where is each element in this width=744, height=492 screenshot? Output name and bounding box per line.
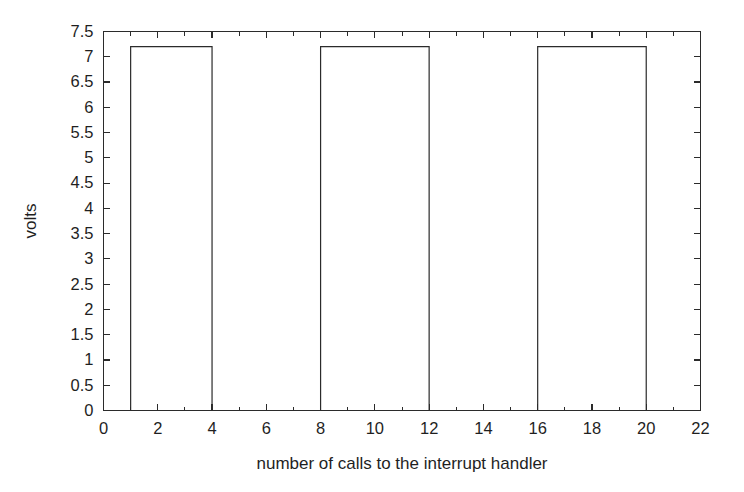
x-tick-label: 20 xyxy=(637,419,655,437)
x-tick-label: 16 xyxy=(529,419,547,437)
y-tick-label: 2 xyxy=(84,300,93,318)
y-tick-label: 7.5 xyxy=(71,22,94,40)
x-tick-label: 22 xyxy=(691,419,709,437)
y-tick-label: 4.5 xyxy=(71,173,94,191)
x-tick-label: 14 xyxy=(474,419,492,437)
x-tick-label: 6 xyxy=(262,419,271,437)
x-tick-label: 8 xyxy=(316,419,325,437)
y-tick-label: 2.5 xyxy=(71,275,94,293)
x-tick-label: 4 xyxy=(207,419,216,437)
x-tick-label: 18 xyxy=(583,419,601,437)
y-tick-label: 1.5 xyxy=(71,325,94,343)
x-tick-label: 2 xyxy=(153,419,162,437)
y-tick-label: 5 xyxy=(84,148,93,166)
y-tick-label: 6.5 xyxy=(71,72,94,90)
y-tick-label: 6 xyxy=(84,98,93,116)
x-tick-label: 12 xyxy=(420,419,438,437)
y-axis-title: volts xyxy=(21,204,40,239)
y-tick-label: 0 xyxy=(84,401,93,419)
x-tick-label: 0 xyxy=(99,419,108,437)
x-tick-label: 10 xyxy=(366,419,384,437)
y-tick-label: 5.5 xyxy=(71,123,94,141)
y-tick-label: 4 xyxy=(84,199,93,217)
x-axis-title: number of calls to the interrupt handler xyxy=(256,454,547,473)
y-tick-label: 0.5 xyxy=(71,376,94,394)
y-tick-label: 1 xyxy=(84,350,93,368)
y-tick-label: 3 xyxy=(84,249,93,267)
plot-canvas: 00.511.522.533.544.555.566.577.5 0246810… xyxy=(0,0,744,492)
y-tick-label: 7 xyxy=(84,47,93,65)
chart-figure: 00.511.522.533.544.555.566.577.5 0246810… xyxy=(0,0,744,492)
y-tick-label: 3.5 xyxy=(71,224,94,242)
